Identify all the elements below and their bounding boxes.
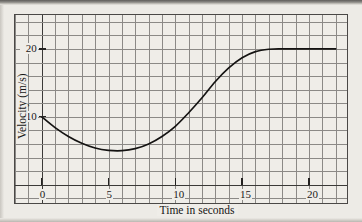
x-tick-mark <box>241 178 242 185</box>
y-tick-mark <box>39 116 46 117</box>
scan-edge-top <box>0 0 362 5</box>
x-tick-label: 20 <box>306 189 319 200</box>
x-tick-label: 5 <box>106 189 114 200</box>
y-tick-mark <box>39 48 46 49</box>
x-tick-mark <box>108 178 109 185</box>
velocity-curve <box>15 15 349 205</box>
x-tick-label: 15 <box>239 189 252 200</box>
x-tick-mark <box>175 178 176 185</box>
x-axis-title: Time in seconds <box>157 204 238 216</box>
x-tick-mark <box>308 178 309 185</box>
scan-edge-bottom <box>0 218 362 222</box>
x-tick-label: 10 <box>172 189 185 200</box>
y-tick-label: 20 <box>20 43 38 54</box>
x-tick-mark <box>41 178 42 185</box>
y-axis-title: Velocity (m/s) <box>16 71 28 140</box>
scan-edge-left <box>0 0 4 222</box>
x-tick-label: 0 <box>39 189 47 200</box>
chart-plot-frame: 051015201020 Time in seconds Velocity (m… <box>14 14 348 204</box>
